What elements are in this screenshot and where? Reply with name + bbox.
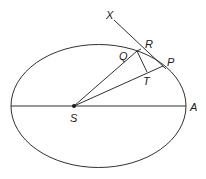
label-Q: Q bbox=[119, 50, 128, 62]
label-S: S bbox=[70, 112, 78, 124]
label-X: X bbox=[105, 9, 114, 21]
label-R: R bbox=[145, 38, 153, 50]
orbit-diagram: X R Q P T S A bbox=[0, 0, 206, 179]
focus-point-S bbox=[72, 104, 76, 108]
label-T: T bbox=[143, 75, 151, 87]
label-P: P bbox=[167, 56, 175, 68]
label-A: A bbox=[189, 101, 197, 113]
line-QR bbox=[137, 49, 141, 51]
